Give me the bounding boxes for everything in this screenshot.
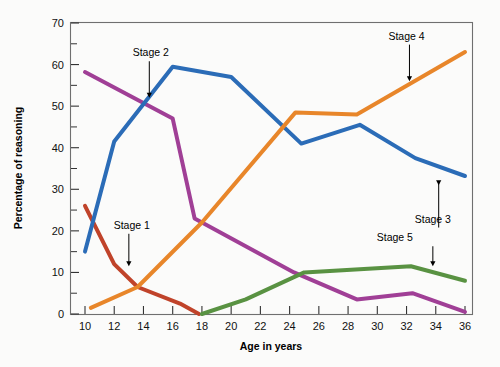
- x-tick-label: 12: [108, 320, 120, 332]
- annotation-label-stage-2: Stage 2: [133, 46, 169, 58]
- chart-container: 010203040506070 101214161820222426283032…: [0, 0, 500, 367]
- x-tick-label: 18: [196, 320, 208, 332]
- y-tick-label: 10: [52, 266, 64, 278]
- x-tick-label: 36: [459, 320, 471, 332]
- y-axis-minor-ticks: [71, 44, 77, 293]
- x-tick-label: 24: [283, 320, 295, 332]
- x-tick-label: 20: [225, 320, 237, 332]
- line-chart: 010203040506070 101214161820222426283032…: [0, 0, 500, 367]
- y-tick-label: 0: [58, 308, 64, 320]
- x-tick-label: 14: [137, 320, 149, 332]
- annotation-arrowhead-icon: [407, 76, 412, 81]
- y-axis-label: Percentage of reasoning: [12, 107, 24, 230]
- plot-frame: [71, 23, 473, 315]
- annotation-arrowhead-icon: [126, 261, 131, 266]
- annotation-label-stage-4: Stage 4: [388, 30, 424, 42]
- x-tick-label: 22: [254, 320, 266, 332]
- series-line-stage-4: [91, 52, 465, 308]
- x-tick-label: 34: [430, 320, 442, 332]
- x-tick-label: 28: [342, 320, 354, 332]
- y-tick-label: 20: [52, 225, 64, 237]
- x-tick-label: 16: [167, 320, 179, 332]
- x-axis-ticks: 1012141618202224262830323436: [79, 306, 471, 332]
- y-tick-label: 30: [52, 183, 64, 195]
- annotation-arrowhead-icon: [430, 261, 435, 266]
- y-tick-label: 50: [52, 100, 64, 112]
- y-tick-label: 70: [52, 17, 64, 29]
- annotation-label-stage-5: Stage 5: [377, 231, 413, 243]
- x-tick-label: 32: [400, 320, 412, 332]
- x-tick-label: 26: [313, 320, 325, 332]
- x-axis-label: Age in years: [240, 340, 303, 352]
- annotation-label-stage-1: Stage 1: [114, 219, 150, 231]
- y-tick-label: 40: [52, 142, 64, 154]
- y-tick-label: 60: [52, 59, 64, 71]
- x-tick-label: 10: [79, 320, 91, 332]
- series-lines: [85, 52, 465, 314]
- annotation-arrowhead-icon: [436, 180, 441, 185]
- annotation-label-stage-3: Stage 3: [415, 213, 451, 225]
- x-tick-label: 30: [371, 320, 383, 332]
